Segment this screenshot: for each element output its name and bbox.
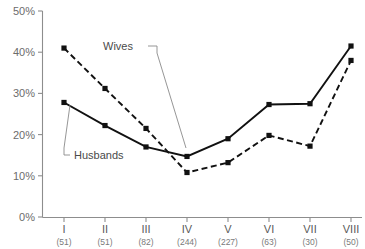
x-sample-size-2: (51)	[97, 237, 112, 247]
data-point-marker	[143, 126, 148, 131]
data-point-marker	[225, 160, 230, 165]
y-tick-label-30: 30%	[13, 87, 35, 99]
data-point-marker	[102, 123, 107, 128]
data-point-marker	[266, 133, 271, 138]
y-tick-label-40: 40%	[13, 46, 35, 58]
x-tick-marks	[64, 218, 351, 223]
data-point-marker	[307, 144, 312, 149]
data-point-marker	[225, 136, 230, 141]
data-point-marker	[61, 45, 66, 50]
y-tick-label-10: 10%	[13, 170, 35, 182]
x-sample-size-5: (227)	[218, 237, 238, 247]
data-point-marker	[348, 43, 353, 48]
x-tick-label-7: VII	[303, 223, 316, 235]
wives-leader-line	[148, 46, 186, 148]
data-point-marker	[184, 154, 189, 159]
y-tick-label-20: 20%	[13, 129, 35, 141]
x-sample-size-4: (244)	[177, 237, 197, 247]
series-annotation-husbands: Husbands	[74, 149, 124, 161]
x-tick-label-8: VIII	[343, 223, 360, 235]
x-tick-label-2: II	[102, 223, 108, 235]
y-tick-label-50: 50%	[13, 5, 35, 17]
line-chart: 50% 40% 30% 20% 10% 0% I II III IV V VI	[0, 0, 365, 249]
y-axis-tick-labels: 50% 40% 30% 20% 10% 0%	[13, 5, 35, 223]
x-axis-sample-sizes: (51) (51) (82) (244) (227) (63) (30) (50…	[56, 237, 358, 247]
x-tick-label-6: VI	[264, 223, 274, 235]
y-tick-marks	[38, 11, 43, 217]
data-point-marker	[61, 100, 66, 105]
x-sample-size-7: (30)	[302, 237, 317, 247]
data-point-marker	[307, 101, 312, 106]
data-point-marker	[348, 58, 353, 63]
x-tick-label-3: III	[141, 223, 150, 235]
x-sample-size-6: (63)	[261, 237, 276, 247]
x-axis-tick-labels: I II III IV V VI VII VIII	[62, 223, 359, 235]
data-point-marker	[266, 102, 271, 107]
data-point-marker	[143, 144, 148, 149]
x-sample-size-3: (82)	[138, 237, 153, 247]
x-tick-label-4: IV	[182, 223, 193, 235]
x-sample-size-8: (50)	[343, 237, 358, 247]
data-point-marker	[102, 86, 107, 91]
series-markers-husbands	[61, 43, 353, 159]
x-tick-label-1: I	[62, 223, 65, 235]
x-sample-size-1: (51)	[56, 237, 71, 247]
data-point-marker	[184, 170, 189, 175]
husbands-leader-line	[64, 105, 70, 155]
chart-container: 50% 40% 30% 20% 10% 0% I II III IV V VI	[0, 0, 365, 249]
x-tick-label-5: V	[224, 223, 232, 235]
y-tick-label-0: 0%	[19, 211, 35, 223]
series-annotation-wives: Wives	[103, 40, 133, 52]
